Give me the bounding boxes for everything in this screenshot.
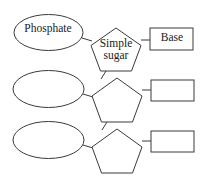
phosphate-ellipse-row2[interactable] [13,71,84,108]
diagram-canvas [0,0,202,191]
sugar-pentagon-row1[interactable] [91,28,141,71]
connector-sugar-down-row1 [101,71,106,79]
phosphate-ellipse-row3[interactable] [13,122,84,159]
connector-phosphate-sugar-row2 [83,94,93,97]
connector-phosphate-sugar-row3 [83,145,93,148]
diagram-row-1 [14,15,193,80]
base-rect-row2[interactable] [151,80,194,101]
diagram-row-2 [13,71,194,131]
phosphate-ellipse-row1[interactable] [14,15,83,51]
connector-phosphate-sugar-row1 [82,38,92,41]
diagram-row-3 [13,122,194,174]
base-rect-row1[interactable] [150,28,193,50]
base-rect-row3[interactable] [151,131,194,152]
sugar-pentagon-row3[interactable] [92,129,142,173]
nucleotide-diagram: Phosphate Simplesugar Base [0,0,202,191]
connector-sugar-down-row2 [102,122,107,130]
sugar-pentagon-row2[interactable] [92,78,142,122]
